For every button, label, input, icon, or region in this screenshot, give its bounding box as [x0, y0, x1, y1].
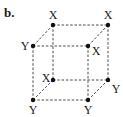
vertex-label-back-top-right: X — [104, 9, 113, 21]
vertex-label-back-bottom-right: Y — [112, 83, 121, 95]
vertex-dot-front-top-right — [86, 44, 90, 48]
vertex-dot-back-bottom-right — [106, 78, 110, 82]
vertex-label-front-top-left: Y — [21, 40, 30, 52]
vertex-dot-back-top-left — [51, 23, 55, 27]
cube-edge — [33, 25, 53, 46]
vertex-dot-back-bottom-left — [51, 78, 55, 82]
vertex-dot-back-top-right — [106, 23, 110, 27]
vertex-label-front-bottom-right: Y — [84, 104, 93, 116]
cube-edge — [88, 80, 108, 100]
vertex-label-back-top-left: X — [49, 9, 58, 21]
cube-edge — [88, 25, 108, 46]
cube-edges — [33, 25, 108, 100]
vertex-label-back-bottom-left: X — [42, 72, 51, 84]
vertex-label-front-bottom-left: Y — [29, 104, 38, 116]
vertex-dot-front-bottom-right — [86, 98, 90, 102]
cube-diagram: b. XXYXXYYY — [0, 0, 123, 117]
vertex-label-front-top-right: X — [92, 45, 101, 57]
vertex-dot-front-bottom-left — [31, 98, 35, 102]
vertex-dot-front-top-left — [31, 44, 35, 48]
